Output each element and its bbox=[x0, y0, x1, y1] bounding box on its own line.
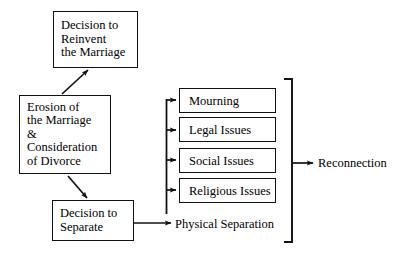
node-decision-to-separate: Decision to Separate bbox=[52, 200, 134, 241]
arrow-erosion-to-separate bbox=[68, 176, 87, 198]
node-line: Reinvent bbox=[61, 33, 137, 47]
node-legal-issues: Legal Issues bbox=[179, 117, 276, 142]
node-line: of Divorce bbox=[27, 155, 110, 169]
node-line: Separate bbox=[60, 221, 133, 235]
node-line: Erosion of bbox=[27, 101, 110, 115]
right-grouping-bracket bbox=[284, 79, 292, 242]
node-erosion-of-the-marriage-and-consideration-of-divorce: Erosion of the Marriage & Consideration … bbox=[19, 95, 111, 174]
node-decision-to-reinvent-the-marriage: Decision to Reinvent the Marriage bbox=[53, 11, 138, 68]
node-mourning: Mourning bbox=[179, 88, 276, 113]
node-line: the Marriage bbox=[27, 114, 110, 128]
node-label: Legal Issues bbox=[189, 123, 251, 137]
node-line: Decision to bbox=[61, 19, 137, 33]
node-label: Religious Issues bbox=[189, 184, 271, 198]
node-line: the Marriage bbox=[61, 46, 137, 60]
arrow-erosion-to-reinvent bbox=[62, 70, 88, 94]
node-line: Decision to bbox=[60, 207, 133, 221]
node-label: Social Issues bbox=[189, 154, 254, 168]
node-line: Consideration bbox=[27, 141, 110, 155]
node-social-issues: Social Issues bbox=[179, 148, 276, 173]
node-label: Mourning bbox=[189, 94, 239, 108]
node-line: & bbox=[27, 128, 110, 142]
process-flow-diagram: Decision to Reinvent the Marriage Erosio… bbox=[0, 0, 409, 262]
label-physical-separation: Physical Separation bbox=[175, 217, 274, 231]
label-reconnection: Reconnection bbox=[318, 156, 387, 170]
node-religious-issues: Religious Issues bbox=[179, 178, 276, 203]
